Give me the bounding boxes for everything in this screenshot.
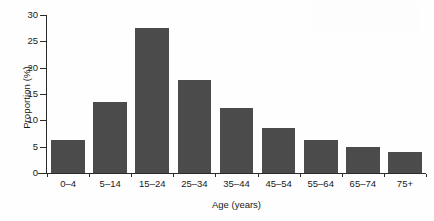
x-tick-mark [384, 174, 385, 177]
y-tick-mark [40, 173, 46, 174]
y-tick-label: 0 [0, 168, 38, 178]
y-tick-mark [40, 68, 46, 69]
bar [304, 140, 338, 173]
y-tick-label: 5 [0, 142, 38, 152]
x-tick-label: 5–14 [89, 179, 131, 189]
y-tick-mark [40, 41, 46, 42]
x-tick-label: 45–54 [258, 179, 300, 189]
bar [220, 108, 254, 173]
x-tick-mark [426, 174, 427, 177]
y-tick-mark [40, 94, 46, 95]
x-tick-mark [300, 174, 301, 177]
x-tick-label: 55–64 [300, 179, 342, 189]
plot-area [47, 15, 426, 173]
y-tick-label: 30 [0, 10, 38, 20]
y-tick-mark [40, 120, 46, 121]
x-tick-label: 35–44 [215, 179, 257, 189]
x-tick-mark [342, 174, 343, 177]
x-tick-label: 25–34 [173, 179, 215, 189]
bar [388, 152, 422, 173]
x-tick-mark [258, 174, 259, 177]
x-tick-mark [131, 174, 132, 177]
bar [262, 128, 296, 173]
x-tick-label: 65–74 [342, 179, 384, 189]
x-tick-mark [215, 174, 216, 177]
x-tick-mark [173, 174, 174, 177]
y-tick-label: 25 [0, 36, 38, 46]
x-tick-label: 75+ [384, 179, 426, 189]
y-tick-mark [40, 15, 46, 16]
bar [51, 140, 85, 173]
bar [93, 102, 127, 173]
x-tick-mark [89, 174, 90, 177]
x-axis-title: Age (years) [47, 199, 426, 210]
bar [346, 147, 380, 173]
y-tick-label: 20 [0, 63, 38, 73]
y-tick-label: 15 [0, 89, 38, 99]
x-tick-label: 0–4 [47, 179, 89, 189]
bar [178, 80, 212, 173]
bar [135, 28, 169, 173]
y-tick-label: 10 [0, 115, 38, 125]
y-tick-mark [40, 147, 46, 148]
x-axis-line [38, 173, 426, 174]
x-tick-mark [47, 174, 48, 177]
x-tick-label: 15–24 [131, 179, 173, 189]
bar-chart: Proportion (%) 051015202530 0–45–1415–24… [0, 0, 434, 221]
